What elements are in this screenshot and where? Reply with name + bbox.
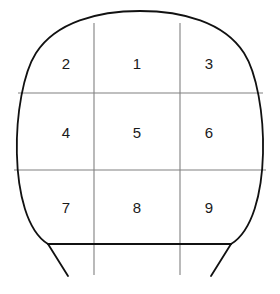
grid-cell-number-9: 9 bbox=[197, 200, 221, 215]
grid-cell-number-8: 8 bbox=[125, 200, 149, 215]
left-taper-line bbox=[48, 244, 68, 276]
grid-cell-number-2: 2 bbox=[54, 56, 78, 71]
grid-cell-number-6: 6 bbox=[197, 125, 221, 140]
diagram-root: 213456789 bbox=[0, 0, 280, 294]
grid-cell-number-1: 1 bbox=[125, 56, 149, 71]
grid-cell-number-7: 7 bbox=[54, 200, 78, 215]
right-taper-line bbox=[211, 244, 231, 276]
diagram-canvas bbox=[0, 0, 280, 294]
grid-cell-number-5: 5 bbox=[125, 125, 149, 140]
grid-cell-number-4: 4 bbox=[54, 125, 78, 140]
grid-cell-number-3: 3 bbox=[197, 56, 221, 71]
